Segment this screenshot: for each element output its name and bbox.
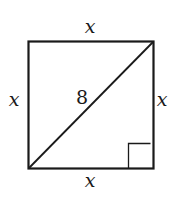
label-bottom-side: x — [85, 169, 96, 191]
label-left-side: x — [9, 88, 20, 110]
square-diagram: x x x x 8 — [0, 0, 176, 197]
label-top-side: x — [85, 15, 96, 37]
label-right-side: x — [157, 88, 168, 110]
right-angle-marker — [129, 144, 151, 169]
label-diagonal: 8 — [76, 86, 88, 108]
diagonal — [29, 42, 153, 168]
